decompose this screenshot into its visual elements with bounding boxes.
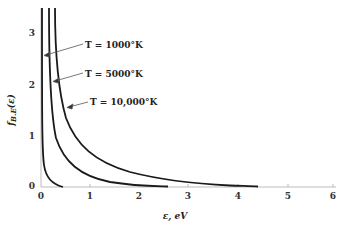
svg-text:fB.E(ε): fB.E(ε) — [6, 94, 18, 127]
x-tick-label: 6 — [330, 191, 336, 201]
y-tick-label: 1 — [29, 131, 35, 141]
annotation-5000k: T = 5000°K — [85, 69, 144, 79]
y-axis-label: fB.E(ε) — [6, 94, 18, 127]
y-ticks: 0 1 2 3 — [29, 28, 35, 191]
y-tick-label: 2 — [29, 80, 35, 90]
x-tick-label: 2 — [136, 191, 142, 201]
annotation-1000k: T = 1000°K — [85, 40, 144, 50]
x-axis-label: ε, eV — [163, 211, 188, 222]
x-tick-label: 3 — [185, 191, 191, 201]
x-tick-label: 5 — [285, 191, 291, 201]
y-label-sub: B.E — [9, 108, 18, 123]
x-tick-label: 1 — [87, 191, 93, 201]
x-tick-label: 4 — [235, 191, 241, 201]
y-tick-label: 3 — [29, 28, 35, 38]
curve-1000k — [42, 8, 63, 187]
chart: 0 1 2 3 4 5 6 0 1 2 3 fB.E(ε) ε, eV T = … — [0, 0, 346, 229]
x-tick-label: 0 — [38, 191, 44, 201]
y-label-arg: (ε) — [6, 94, 16, 108]
y-tick-label: 0 — [29, 181, 35, 191]
annotation-10000k: T = 10,000°K — [90, 97, 158, 108]
